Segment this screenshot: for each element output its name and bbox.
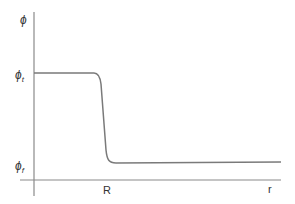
r-mark-label: R [103,184,111,196]
x-axis-label: r [268,183,272,195]
phi-f-label: ϕf [15,159,25,175]
y-axis-label: ϕ [20,13,27,27]
phi-t-label: ϕt [15,68,25,84]
phi-curve [34,73,281,163]
phi-profile-diagram: ϕ ϕt ϕf R r [0,0,295,204]
